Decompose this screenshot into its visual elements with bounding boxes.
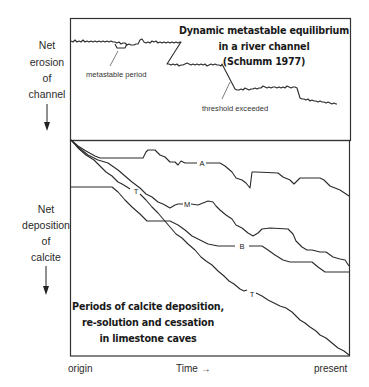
- curve-label-t-upper: T: [134, 187, 139, 196]
- threshold-leader-line: [222, 82, 230, 99]
- bottom-y-label-line-2: deposition: [22, 219, 70, 231]
- curve-label-a: A: [199, 159, 204, 168]
- bottom-panel: Net deposition of calcite A M B T T Peri…: [22, 140, 349, 356]
- threshold-exceeded-annotation: threshold exceeded: [202, 104, 268, 113]
- curve-b: [71, 187, 349, 272]
- top-y-label-line-2: erosion: [30, 56, 65, 68]
- curve-label-m: M: [184, 200, 190, 209]
- bottom-title-line-3: in limestone caves: [99, 333, 197, 344]
- metastable-period-annotation: metastable period: [86, 70, 146, 79]
- x-axis-origin-label: origin: [68, 363, 92, 374]
- curve-label-b: B: [239, 242, 244, 251]
- metastable-leader-line: [110, 51, 118, 66]
- top-title-line-1: Dynamic metastable equilibrium: [179, 25, 349, 36]
- curve-m: [71, 140, 349, 266]
- top-panel-title: Dynamic metastable equilibrium in a rive…: [179, 25, 349, 67]
- metastable-dip-trace: [115, 44, 127, 48]
- bottom-y-label-line-1: Net: [38, 203, 54, 215]
- bottom-title-line-2: re-solution and cessation: [82, 317, 215, 328]
- down-arrow-icon: [43, 266, 49, 295]
- bottom-title-line-1: Periods of calcite deposition,: [72, 301, 224, 312]
- x-axis: origin Time → present: [68, 363, 348, 374]
- top-y-label-line-3: of: [43, 72, 52, 84]
- x-axis-time-label: Time →: [176, 363, 211, 374]
- bottom-y-label-line-4: calcite: [31, 251, 61, 263]
- bottom-y-label-line-3: of: [42, 235, 51, 247]
- down-arrow-icon: [44, 104, 50, 131]
- top-panel: Net erosion of channel Dynamic metastabl…: [29, 19, 351, 141]
- calcite-deposition-diagram: Net erosion of channel Dynamic metastabl…: [0, 0, 369, 387]
- bottom-y-axis-label: Net deposition of calcite: [22, 203, 70, 295]
- curve-label-t-lower: T: [250, 290, 255, 299]
- top-title-line-3: (Schumm 1977): [223, 56, 305, 67]
- top-title-line-2: in a river channel: [219, 41, 310, 52]
- top-y-label-line-4: channel: [29, 88, 66, 100]
- x-axis-present-label: present: [314, 363, 348, 374]
- top-panel-frame: [71, 19, 351, 141]
- top-y-axis-label: Net erosion of channel: [29, 39, 66, 131]
- bottom-panel-title: Periods of calcite deposition, re-soluti…: [72, 301, 224, 344]
- top-y-label-line-1: Net: [39, 39, 55, 51]
